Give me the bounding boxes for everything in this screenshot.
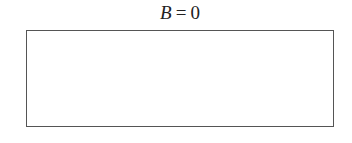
empty-rectangle-region [26, 30, 334, 127]
equals-sign: = [172, 2, 191, 23]
value-zero: 0 [190, 2, 200, 23]
variable-b: B [160, 2, 172, 23]
equation-label: B=0 [0, 3, 352, 23]
